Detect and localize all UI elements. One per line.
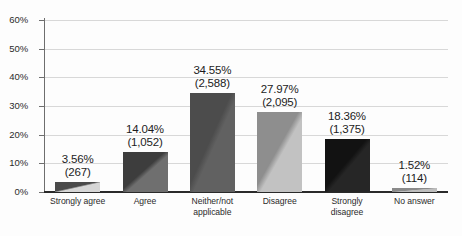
bar-data-label: 27.97%(2,095) bbox=[261, 83, 299, 109]
bar-data-label: 34.55%(2,588) bbox=[193, 64, 231, 90]
bar-chart: 0%10%20%30%40%50%60% 3.56%(267)14.04%(1,… bbox=[0, 0, 462, 236]
bar-percent-label: 3.56% bbox=[62, 153, 94, 166]
bar-group: 1.52%(114) bbox=[392, 14, 437, 192]
x-axis-label-line: No answer bbox=[381, 196, 448, 207]
y-axis-tick-label: 60% bbox=[0, 14, 28, 25]
bars-container: 3.56%(267)14.04%(1,052)34.55%(2,588)27.9… bbox=[44, 14, 448, 192]
bar-data-label: 1.52%(114) bbox=[399, 159, 431, 185]
bar-group: 3.56%(267) bbox=[55, 14, 100, 192]
bar-percent-label: 34.55% bbox=[193, 64, 231, 77]
bar bbox=[55, 182, 100, 192]
bar bbox=[392, 188, 437, 192]
bar-group: 18.36%(1,375) bbox=[325, 14, 370, 192]
y-axis-tick-label: 20% bbox=[0, 129, 28, 140]
bar-percent-label: 14.04% bbox=[126, 123, 164, 136]
bar-count-label: (114) bbox=[399, 172, 431, 185]
x-axis-label-strongly-agree: Strongly agree bbox=[44, 196, 111, 207]
bar-count-label: (2,588) bbox=[193, 77, 231, 90]
x-axis-label-strongly-disagree: Stronglydisagree bbox=[313, 196, 380, 217]
cropped-text-glyphs bbox=[0, 0, 3, 3]
bar-count-label: (1,375) bbox=[328, 123, 366, 136]
x-axis-category-labels: Strongly agreeAgreeNeither/notapplicable… bbox=[44, 196, 448, 236]
bar-group: 34.55%(2,588) bbox=[190, 14, 235, 192]
cropped-text-residue bbox=[0, 0, 462, 7]
bar bbox=[325, 139, 370, 192]
x-axis-label-line: Disagree bbox=[246, 196, 313, 207]
y-axis-tick-label: 10% bbox=[0, 157, 28, 168]
bar-data-label: 18.36%(1,375) bbox=[328, 110, 366, 136]
bar-count-label: (267) bbox=[62, 166, 94, 179]
y-axis-tick-label: 30% bbox=[0, 100, 28, 111]
x-axis-label-line: Strongly bbox=[313, 196, 380, 207]
x-axis-label-no-answer: No answer bbox=[381, 196, 448, 207]
x-axis-label-line: Strongly agree bbox=[44, 196, 111, 207]
bar-data-label: 14.04%(1,052) bbox=[126, 123, 164, 149]
bar-data-label: 3.56%(267) bbox=[62, 153, 94, 179]
x-axis-label-line: disagree bbox=[313, 207, 380, 218]
bar-group: 27.97%(2,095) bbox=[257, 14, 302, 192]
bar-group: 14.04%(1,052) bbox=[123, 14, 168, 192]
bar bbox=[123, 152, 168, 192]
bar-percent-label: 18.36% bbox=[328, 110, 366, 123]
x-axis-label-line: Neither/not bbox=[179, 196, 246, 207]
bar-percent-label: 1.52% bbox=[399, 159, 431, 172]
bar bbox=[257, 112, 302, 192]
bar-count-label: (2,095) bbox=[261, 96, 299, 109]
y-axis-tick-label: 0% bbox=[0, 186, 28, 197]
y-axis-tick-label: 40% bbox=[0, 71, 28, 82]
x-axis-label-line: Agree bbox=[111, 196, 178, 207]
bar-percent-label: 27.97% bbox=[261, 83, 299, 96]
x-axis-label-disagree: Disagree bbox=[246, 196, 313, 207]
bar-count-label: (1,052) bbox=[126, 136, 164, 149]
x-axis-label-line: applicable bbox=[179, 207, 246, 218]
x-axis-label-neither-not-applicable: Neither/notapplicable bbox=[179, 196, 246, 217]
x-axis-label-agree: Agree bbox=[111, 196, 178, 207]
bar bbox=[190, 93, 235, 192]
y-axis-tick-label: 50% bbox=[0, 43, 28, 54]
